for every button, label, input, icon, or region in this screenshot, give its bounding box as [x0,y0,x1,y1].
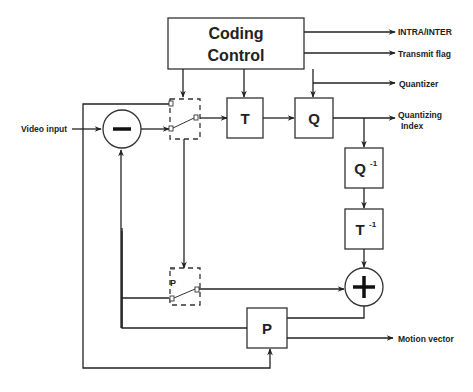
quantizer-block-label: Q [308,110,320,127]
inverse-quantizer-block: Q -1 [345,148,383,188]
intra-inter-label: INTRA/INTER [398,27,452,37]
motion-vector-label: Motion vector [398,334,454,344]
transform-label: T [240,110,249,127]
lower-switch-pin-label: P [170,278,176,288]
quantizer-label: Quantizer [399,79,439,89]
coding-control-label-1: Coding [208,25,263,42]
quantizer-block: Q [295,98,333,138]
adder-to-p-line [287,306,364,318]
inverse-transform-sup: -1 [369,220,377,229]
quantizing-index-label-2: Index [401,121,423,131]
codec-diagram: Coding Control INTRA/INTER Transmit flag… [0,0,473,392]
inverse-transform-block: T -1 [345,209,383,249]
coding-control-label-2: Control [208,47,265,64]
inverse-transform-label: T [355,221,364,238]
predictor-label: P [262,320,272,337]
subtractor [103,110,141,148]
upper-switch [169,99,200,139]
inverse-quantizer-label: Q [354,160,366,177]
adder [345,268,383,306]
lower-switch: P [170,268,200,305]
coding-control-block: Coding Control [168,18,304,69]
predictor-block: P [247,308,287,348]
video-input-label: Video input [21,124,67,134]
transmit-flag-label: Transmit flag [398,49,451,59]
transform-block: T [227,98,263,138]
quantizing-index-label-1: Quantizing [398,110,442,120]
inverse-quantizer-sup: -1 [370,159,378,168]
